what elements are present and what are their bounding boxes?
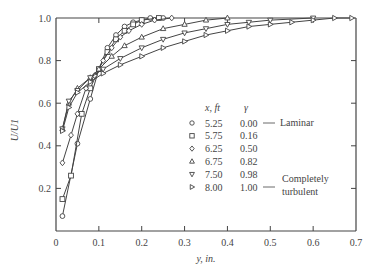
triangle-right-marker-icon xyxy=(190,185,194,190)
legend-row: 6.250.50 xyxy=(190,143,258,154)
legend-x-value: 5.25 xyxy=(205,118,223,129)
y-tick-label: 0.6 xyxy=(39,98,52,109)
legend-gamma-value: 0.98 xyxy=(240,169,258,180)
triangle-right-marker-icon xyxy=(350,15,355,20)
triangle-right-marker-icon xyxy=(333,15,338,20)
triangle-right-marker-icon xyxy=(204,32,209,37)
y-tick-label: 0.2 xyxy=(39,183,52,194)
triangle-right-marker-icon xyxy=(140,54,145,59)
legend-gamma-value: 1.00 xyxy=(240,182,258,193)
legend-row: 8.001.00 xyxy=(190,182,257,193)
legend-row: 6.750.82 xyxy=(190,156,258,167)
legend-header-x: x, ft xyxy=(204,102,220,113)
legend-row: 5.250.00 xyxy=(190,118,258,129)
triangle-right-marker-icon xyxy=(118,62,123,67)
legend-row: 7.500.98 xyxy=(190,169,258,180)
legend-x-value: 6.75 xyxy=(205,156,223,167)
circle-marker-icon xyxy=(60,214,65,219)
triangle-up-marker-icon xyxy=(190,159,195,163)
triangle-down-marker-icon xyxy=(190,172,195,176)
legend-annotation-turbulent: turbulent xyxy=(282,186,318,197)
y-axis-title: U/U1 xyxy=(9,119,20,141)
y-tick-label: 1.0 xyxy=(39,13,52,24)
legend: x, ft γ 5.250.005.750.166.250.506.750.82… xyxy=(190,102,329,197)
legend-x-value: 5.75 xyxy=(205,130,223,141)
y-axis: 0.20.40.60.81.0 xyxy=(39,13,357,194)
x-axis-title: y, in. xyxy=(195,253,215,264)
series-8-00 xyxy=(61,15,355,133)
x-tick-label: 0.4 xyxy=(221,237,234,248)
x-tick-label: 0 xyxy=(54,237,59,248)
legend-x-value: 8.00 xyxy=(205,182,223,193)
x-tick-label: 0.7 xyxy=(350,237,363,248)
diamond-marker-icon xyxy=(60,160,65,166)
legend-row: 5.750.16 xyxy=(190,130,258,141)
x-tick-label: 0.5 xyxy=(264,237,277,248)
x-tick-label: 0.6 xyxy=(307,237,320,248)
legend-header-gamma: γ xyxy=(244,102,249,113)
square-marker-icon xyxy=(69,173,74,178)
square-marker-icon xyxy=(190,134,194,138)
legend-annotation-laminar: Laminar xyxy=(280,117,315,128)
square-marker-icon xyxy=(60,197,65,202)
circle-marker-icon xyxy=(88,97,93,102)
legend-x-value: 7.50 xyxy=(205,169,223,180)
y-tick-label: 0.4 xyxy=(39,140,52,151)
triangle-right-marker-icon xyxy=(290,20,295,25)
y-tick-label: 0.8 xyxy=(39,55,52,66)
series-7-50 xyxy=(60,16,316,132)
triangle-down-marker-icon xyxy=(118,57,123,62)
legend-x-value: 6.25 xyxy=(205,143,223,154)
velocity-profile-chart: 00.10.20.30.40.50.60.7 0.20.40.60.81.0 y… xyxy=(0,0,373,272)
legend-gamma-value: 0.16 xyxy=(240,130,258,141)
triangle-right-marker-icon xyxy=(67,105,72,110)
legend-gamma-value: 0.82 xyxy=(240,156,258,167)
triangle-right-marker-icon xyxy=(161,45,166,50)
square-marker-icon xyxy=(131,22,136,27)
legend-gamma-value: 0.00 xyxy=(240,118,258,129)
triangle-right-marker-icon xyxy=(226,28,231,33)
diamond-marker-icon xyxy=(69,132,74,138)
diamond-marker-icon xyxy=(169,15,174,21)
x-tick-label: 0.1 xyxy=(93,237,106,248)
x-tick-label: 0.2 xyxy=(135,237,148,248)
legend-annotation-completely: Completely xyxy=(282,173,329,184)
circle-marker-icon xyxy=(190,121,194,125)
triangle-right-marker-icon xyxy=(183,39,188,44)
legend-gamma-value: 0.50 xyxy=(240,143,258,154)
x-tick-label: 0.3 xyxy=(178,237,191,248)
diamond-marker-icon xyxy=(190,146,194,151)
